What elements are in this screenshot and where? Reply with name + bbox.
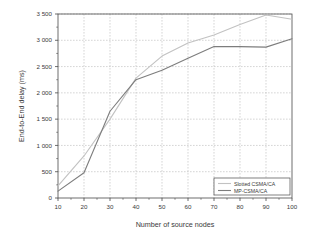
y-axis-tick-label: 500 — [42, 168, 53, 175]
legend-label-2: MP-CSMA/CA — [234, 188, 268, 194]
x-axis-tick-label: 90 — [263, 203, 270, 210]
x-axis-title: Number of source nodes — [136, 220, 215, 229]
x-axis-tick-label: 80 — [237, 203, 244, 210]
x-axis-tick-label: 50 — [159, 203, 166, 210]
y-axis-tick-label: 1 000 — [37, 142, 53, 149]
y-axis-tick-label: 1 500 — [37, 115, 53, 122]
chart-canvas: 05001 0001 5002 0002 5003 0003 500102030… — [0, 0, 316, 236]
line-chart: 05001 0001 5002 0002 5003 0003 500102030… — [0, 0, 316, 236]
x-axis-tick-label: 40 — [133, 203, 140, 210]
x-axis-tick-label: 60 — [185, 203, 192, 210]
plot-area-background — [58, 14, 292, 198]
y-axis-tick-label: 3 000 — [37, 36, 53, 43]
x-axis-tick-label: 70 — [211, 203, 218, 210]
y-axis-tick-label: 2 000 — [37, 89, 53, 96]
x-axis-tick-label: 20 — [81, 203, 88, 210]
legend-label-1: Slotted CSMA/CA — [234, 181, 276, 187]
chart-figure: 05001 0001 5002 0002 5003 0003 500102030… — [0, 0, 316, 236]
x-axis-tick-label: 30 — [107, 203, 114, 210]
y-axis-title: End-to-End delay (ms) — [17, 70, 26, 142]
y-axis-tick-label: 3 500 — [37, 10, 53, 17]
y-axis-tick-label: 2 500 — [37, 63, 53, 70]
y-axis-tick-label: 0 — [49, 194, 53, 201]
x-axis-tick-label: 100 — [287, 203, 298, 210]
x-axis-tick-label: 10 — [55, 203, 62, 210]
